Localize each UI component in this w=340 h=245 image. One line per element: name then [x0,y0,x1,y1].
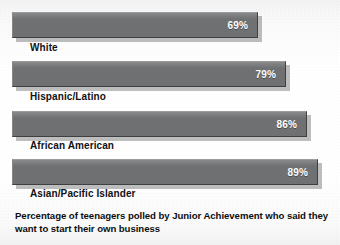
bar-sheen [13,112,306,118]
chart-caption: Percentage of teenagers polled by Junior… [15,210,333,235]
bar-value-white: 69% [227,20,257,31]
bar-sheen [13,160,317,166]
bar-row-asian-pacific-islander: 89% [12,159,318,185]
bar-value-hispanic-latino: 79% [255,69,285,80]
bar-label-asian-pacific-islander: Asian/Pacific Islander [30,188,136,199]
bar-asian-pacific-islander: 89% [12,159,318,185]
bar-row-white: 69% [12,12,258,38]
bar-white: 69% [12,12,258,38]
bar-hispanic-latino: 79% [12,61,286,87]
bar-label-white: White [30,42,58,53]
bar-chart: 69% White 79% Hispanic/Latino 86% Africa… [0,0,340,245]
bar-label-hispanic-latino: Hispanic/Latino [30,91,106,102]
bar-value-african-american: 86% [276,119,306,130]
bar-sheen [13,62,285,68]
bar-african-american: 86% [12,111,307,137]
bar-label-african-american: African American [30,140,114,151]
bar-row-hispanic-latino: 79% [12,61,286,87]
bar-value-asian-pacific-islander: 89% [287,167,317,178]
bar-sheen [13,13,257,19]
bar-row-african-american: 86% [12,111,307,137]
